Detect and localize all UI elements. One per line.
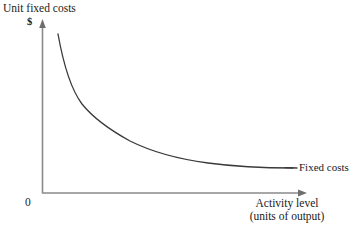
- series-label-fixed-costs: Fixed costs: [299, 161, 349, 173]
- x-axis-title-line1: Activity level: [256, 197, 319, 209]
- y-axis-arrowhead: [39, 19, 46, 28]
- fixed-costs-curve: [58, 34, 293, 168]
- chart-plot-area: [0, 0, 357, 228]
- x-axis-arrowhead: [298, 190, 307, 197]
- y-axis-unit-label: $: [27, 16, 32, 28]
- x-axis-title: Activity level (units of output): [228, 197, 346, 223]
- origin-label: 0: [25, 196, 31, 209]
- x-axis-title-line2: (units of output): [228, 210, 346, 223]
- y-axis-title: Unit fixed costs: [3, 2, 76, 15]
- fixed-cost-chart-figure: Unit fixed costs $ 0 Fixed costs Activit…: [0, 0, 357, 228]
